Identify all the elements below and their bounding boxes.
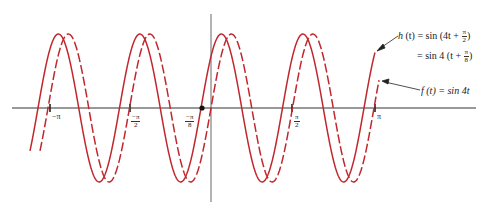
h-formula-line2: = sin 4 (t + π8) [417, 49, 472, 64]
f-formula-text: f (t) = sin 4t [421, 85, 469, 96]
tick-label-pi-over-2: π2 [294, 113, 300, 130]
tick-label-pi: π [377, 113, 381, 121]
h-formula2-close: ) [469, 50, 472, 61]
phase-shift-point [199, 105, 204, 110]
tick-label-neg-pi-over-2: −π2 [131, 113, 140, 130]
h-formula-close: ) [467, 30, 470, 41]
h-formula2-text: = sin 4 (t + [417, 50, 464, 61]
h-formula-line1: h (t) = sin (4t + π2) [398, 29, 470, 44]
h-formula-text: (t) = sin (4t + [403, 30, 462, 41]
annotation-arrows [377, 36, 420, 90]
f-formula: f (t) = sin 4t [421, 86, 469, 96]
tick-label-neg-pi: −π [52, 113, 61, 121]
tick-label-neg-pi-over-8: −π8 [185, 113, 194, 130]
